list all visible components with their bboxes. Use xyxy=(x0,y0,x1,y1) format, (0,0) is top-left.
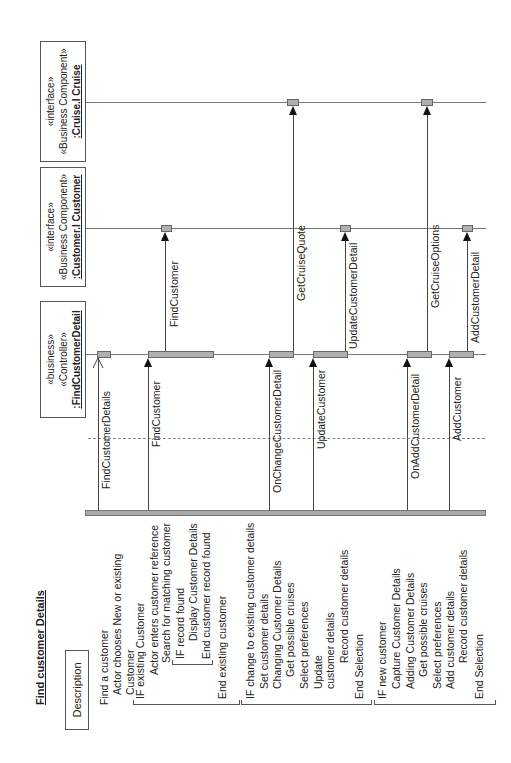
message-label: GetCruiseQuote xyxy=(295,225,307,301)
activation-controller xyxy=(407,351,432,358)
desc-change: Get possible cruises xyxy=(284,582,297,677)
lifeline-customer xyxy=(86,228,486,229)
message-label: AddCustomerDetail xyxy=(469,252,481,343)
desc-existing: IF record found xyxy=(174,588,187,659)
activation-controller xyxy=(148,351,214,358)
message-label: OnAddCustomerDetail xyxy=(409,374,421,479)
arrow-head-icon xyxy=(289,106,297,115)
arrow-head-icon xyxy=(423,106,431,115)
message-line xyxy=(345,241,346,351)
diagram-title: Find customer Details xyxy=(34,590,46,705)
object-name: :Cruise.I Cruise xyxy=(70,42,83,161)
desc-change: customer details xyxy=(324,613,337,689)
desc-new: End Selection xyxy=(473,634,486,699)
object-stereotype: «business» xyxy=(44,302,57,417)
desc-find: Actor chooses New or existing xyxy=(111,554,124,695)
message-label: UpdateCustomerDetail xyxy=(347,243,359,349)
desc-new: Capture Customer Details xyxy=(390,568,403,689)
message-label: UpdateCustomer xyxy=(315,370,327,449)
arrow-head-icon xyxy=(463,232,471,241)
object-stereotype: «interface» xyxy=(44,42,57,161)
activation-customer xyxy=(161,225,172,232)
desc-existing: Display Customer Details xyxy=(187,523,200,641)
activation-customer xyxy=(340,225,351,232)
desc-change: Changing Customer Details xyxy=(271,561,284,689)
message-line xyxy=(313,367,314,510)
message-label: OnChangeCustomerDetail xyxy=(271,370,283,493)
activation-cruise xyxy=(287,99,299,106)
actor-bar xyxy=(85,510,486,516)
desc-new: Select preferences xyxy=(431,601,444,689)
message-label: AddCustomer xyxy=(451,377,463,441)
desc-change: IF change to existing customer details xyxy=(244,523,257,699)
object-name: :FindCustomerDetail xyxy=(70,302,83,417)
desc-existing: End customer record found xyxy=(200,532,213,659)
desc-new: Adding Customer Details xyxy=(404,573,417,689)
message-line xyxy=(98,358,99,510)
message-line xyxy=(467,241,468,351)
message-line xyxy=(427,115,428,351)
message-line xyxy=(407,367,408,510)
desc-change: Set customer details xyxy=(258,594,271,689)
arrow-head-icon xyxy=(403,358,411,367)
desc-existing: Search for matching customer xyxy=(160,523,173,663)
sequence-diagram: Find customer Details Description Find a… xyxy=(0,0,511,763)
activation-controller xyxy=(449,351,474,358)
bracket-record-found xyxy=(172,660,213,665)
object-customer: «interface» «Business Component» :Custom… xyxy=(40,167,86,287)
activation-controller xyxy=(269,351,294,358)
message-label: FindCustomer xyxy=(150,381,162,447)
message-label: FindCustomer xyxy=(168,261,180,327)
arrow-head-icon xyxy=(265,358,273,367)
desc-new: Add customer details xyxy=(444,591,457,689)
object-stereotype: «Business Component» xyxy=(57,168,70,286)
desc-existing: End existing customer xyxy=(216,596,229,699)
object-stereotype: «Business Component» xyxy=(57,42,70,161)
activation-controller xyxy=(313,351,348,358)
message-line xyxy=(269,367,270,510)
desc-existing: IF existing Customer xyxy=(134,603,147,699)
activation-customer xyxy=(462,225,473,232)
desc-change: Select preferences xyxy=(298,601,311,689)
bracket-new xyxy=(374,700,496,705)
activation-cruise xyxy=(421,99,433,106)
desc-new: Record customer details xyxy=(457,550,470,663)
desc-new: Get possible cruises xyxy=(417,582,430,677)
desc-new: IF new customer xyxy=(376,621,389,699)
arrow-head-icon xyxy=(161,232,169,241)
desc-change: End Selection xyxy=(353,634,366,699)
object-stereotype: «interface» xyxy=(44,168,57,286)
desc-find: Find a customer xyxy=(98,630,111,705)
message-line xyxy=(165,241,166,351)
message-line xyxy=(449,367,450,510)
message-line xyxy=(293,115,294,351)
arrow-head-icon xyxy=(144,358,152,367)
bracket-change xyxy=(241,700,372,705)
desc-change: Record customer details xyxy=(338,550,351,663)
bracket-existing xyxy=(133,700,240,705)
activation-controller xyxy=(97,351,111,358)
arrow-head-icon xyxy=(341,232,349,241)
object-cruise: «interface» «Business Component» :Cruise… xyxy=(40,41,86,162)
object-stereotype: «Controller» xyxy=(57,302,70,417)
arrow-head-icon xyxy=(445,358,453,367)
description-box: Description xyxy=(65,650,89,730)
object-name: :Customer.I Customer xyxy=(70,168,83,286)
message-label: GetCruiseOptions xyxy=(429,225,441,308)
arrow-head-icon xyxy=(309,358,317,367)
message-label: FindCustomerDetails xyxy=(100,391,112,489)
open-arrow-icon xyxy=(93,358,104,368)
message-line xyxy=(148,367,149,510)
object-controller: «business» «Controller» :FindCustomerDet… xyxy=(40,301,86,418)
